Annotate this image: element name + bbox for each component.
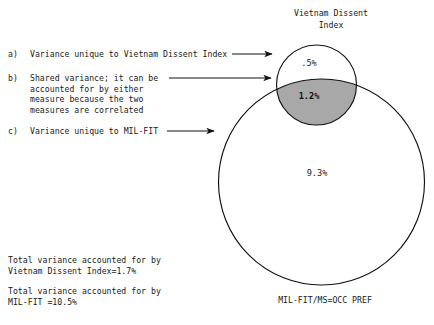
unique-variance-vdi-value: .5% [301, 58, 317, 68]
unique-variance-milfit-value: 9.3% [307, 168, 329, 178]
shared-variance-value: 1.2% [299, 91, 321, 101]
venn-diagram-figure: Vietnam Dissent Index a) Variance unique… [0, 0, 434, 325]
venn-svg: .5% 1.2% 9.3% [0, 0, 434, 325]
shared-variance-region [219, 79, 425, 285]
